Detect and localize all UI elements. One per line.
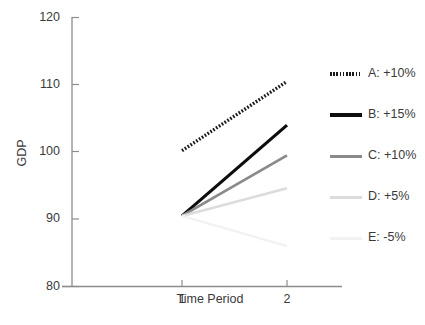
- y-tick-label-120: 120: [20, 10, 60, 24]
- legend-label-e: E: -5%: [368, 228, 406, 246]
- series-line-e: [182, 216, 287, 246]
- y-axis-title: GDP: [15, 123, 29, 183]
- series-line-c: [182, 155, 287, 216]
- y-tick-label-110: 110: [20, 77, 60, 91]
- legend-swatch-d: [330, 196, 362, 199]
- legend-swatch-e: [330, 237, 362, 240]
- y-tick-label-80: 80: [20, 279, 60, 293]
- gdp-line-chart: 120 110 100 90 80 1 2 GDP Time Period A:…: [0, 0, 425, 325]
- legend-swatch-a: [330, 72, 362, 76]
- legend-label-a: A: +10%: [368, 64, 416, 82]
- plot-area: [0, 0, 425, 325]
- y-tick-label-90: 90: [20, 211, 60, 225]
- x-axis-title: Time Period: [130, 292, 290, 306]
- legend-swatch-b: [330, 113, 362, 117]
- legend-label-b: B: +15%: [368, 105, 416, 123]
- legend-label-d: D: +5%: [368, 187, 409, 205]
- legend-swatch-c: [330, 155, 362, 158]
- legend-label-c: C: +10%: [368, 146, 416, 164]
- series-layer: [182, 81, 287, 246]
